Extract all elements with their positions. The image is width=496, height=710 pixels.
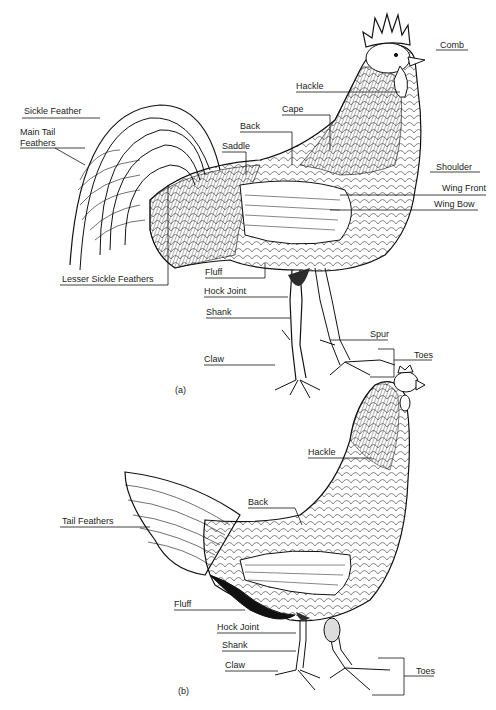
label-hen-hock-joint: Hock Joint (217, 622, 259, 632)
label-wing-front: Wing Front (442, 183, 486, 193)
label-hock-joint: Hock Joint (204, 286, 246, 296)
label-main-tail-feathers-line2: Feathers (20, 138, 56, 148)
label-fluff: Fluff (205, 267, 222, 277)
label-wing-bow: Wing Bow (434, 199, 475, 209)
label-shoulder: Shoulder (436, 162, 472, 172)
label-spur: Spur (370, 329, 389, 339)
label-hen-fluff: Fluff (174, 599, 191, 609)
hen-illustration (125, 365, 425, 690)
label-hackle: Hackle (296, 81, 324, 91)
label-hen-back: Back (248, 497, 268, 507)
label-hen-hackle: Hackle (308, 447, 336, 457)
label-claw: Claw (204, 354, 224, 364)
label-comb: Comb (440, 40, 464, 50)
label-hen-tail-feathers: Tail Feathers (62, 516, 114, 526)
label-toes: Toes (414, 350, 433, 360)
label-hen-toes: Toes (416, 666, 435, 676)
label-back: Back (240, 121, 260, 131)
label-sickle-feather: Sickle Feather (24, 106, 82, 116)
label-main-tail-feathers-line1: Main Tail (20, 127, 55, 137)
caption-b: (b) (178, 686, 189, 696)
label-hen-claw: Claw (225, 660, 245, 670)
label-shank: Shank (206, 307, 232, 317)
label-cape: Cape (282, 104, 304, 114)
label-lesser-sickle-feathers: Lesser Sickle Feathers (62, 274, 154, 284)
label-saddle: Saddle (222, 141, 250, 151)
label-hen-shank: Shank (222, 640, 248, 650)
caption-a: (a) (175, 385, 186, 395)
